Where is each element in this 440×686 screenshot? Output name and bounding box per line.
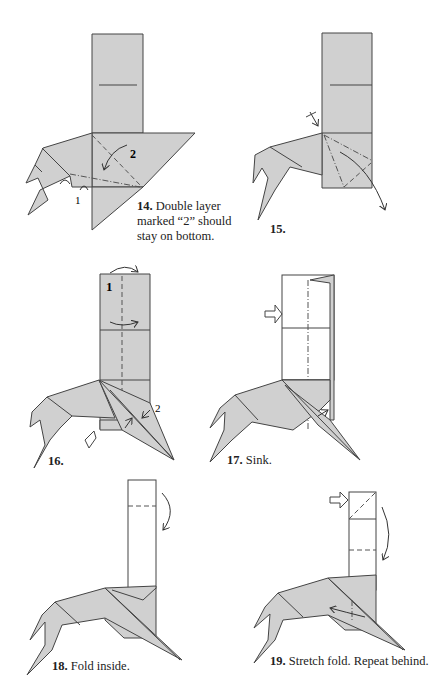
step-16-caption: 16.	[48, 454, 64, 469]
step-18-number: 18.	[52, 659, 68, 673]
step-18-caption-text: Fold inside.	[71, 659, 130, 673]
step-17-caption-text: Sink.	[246, 453, 272, 467]
step-15-diagram	[253, 33, 385, 220]
step-17-diagram	[210, 275, 360, 462]
origami-diagrams: 2 1 1 2	[0, 0, 440, 686]
step-19-diagram	[254, 492, 405, 663]
step-19-caption-text: Stretch fold. Repeat behind.	[289, 654, 429, 668]
step-14-caption-line1: Double layer	[156, 199, 221, 213]
step-16-number: 16.	[48, 454, 64, 468]
step-19-number: 19.	[270, 654, 286, 668]
step-15-caption: 15.	[270, 222, 286, 237]
step-14-number: 14.	[137, 199, 153, 213]
step-14-caption-line3: stay on bottom.	[137, 229, 214, 243]
step-14-label-2: 2	[130, 147, 136, 161]
step-14-caption-line2: marked “2” should	[137, 214, 231, 228]
step-14-label-1: 1	[75, 194, 81, 206]
step-18-diagram	[27, 480, 182, 675]
step-16-label-1: 1	[106, 279, 113, 294]
step-16-diagram	[30, 267, 174, 468]
step-19-caption: 19. Stretch fold. Repeat behind.	[270, 654, 429, 669]
step-17-number: 17.	[227, 453, 243, 467]
step-16-label-2: 2	[155, 402, 161, 414]
step-17-caption: 17. Sink.	[227, 453, 272, 468]
step-15-number: 15.	[270, 222, 286, 236]
step-18-caption: 18. Fold inside.	[52, 659, 130, 674]
step-14-caption: 14. Double layer marked “2” should stay …	[137, 199, 231, 244]
